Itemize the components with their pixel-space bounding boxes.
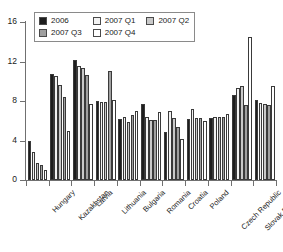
bar [77, 66, 81, 180]
plot-area [26, 22, 276, 180]
legend-item: 2007 Q4 [93, 28, 136, 38]
bar [149, 120, 153, 180]
bar [203, 121, 207, 180]
bar [191, 109, 195, 180]
bar [123, 117, 127, 180]
bar [218, 117, 222, 180]
bar [40, 165, 44, 180]
bar [108, 71, 112, 180]
y-tick-label: 8 [12, 95, 17, 106]
bar [141, 104, 145, 180]
bar [100, 102, 104, 180]
legend-swatch-icon [93, 29, 101, 37]
bar [145, 117, 149, 180]
bar [104, 102, 108, 180]
y-tick-label: 12 [8, 56, 17, 67]
chart-legend: 20062007 Q12007 Q22007 Q32007 Q4 [34, 12, 195, 42]
bar [180, 139, 184, 180]
legend-item: 2006 [39, 16, 82, 26]
legend-label: 2007 Q3 [51, 28, 82, 38]
bar-group [141, 22, 161, 180]
bar [176, 127, 180, 180]
bar [118, 119, 122, 180]
bar [50, 74, 54, 180]
bar [240, 86, 244, 180]
bar [135, 111, 139, 180]
bar [89, 104, 93, 180]
y-tick-label: 16 [8, 16, 17, 27]
x-axis-category-label: Hungary [51, 188, 77, 214]
legend-label: 2007 Q2 [158, 16, 189, 26]
bar [44, 170, 48, 180]
x-axis-line [25, 180, 277, 181]
bar [255, 100, 259, 180]
legend-label: 2006 [51, 16, 69, 26]
bar [213, 117, 217, 180]
bar [263, 104, 267, 180]
bar-group [187, 22, 207, 180]
bar-group [232, 22, 252, 180]
x-axis-labels: HungaryKazakhstanLatviaLithuaniaBulgaria… [0, 186, 283, 252]
bar [158, 112, 162, 180]
x-axis-category-label: Latvia [94, 188, 115, 209]
legend-item: 2007 Q1 [93, 16, 136, 26]
bar [58, 85, 62, 180]
bar-group [118, 22, 138, 180]
bar-group [164, 22, 184, 180]
bar [199, 118, 203, 180]
legend-label: 2007 Q4 [105, 28, 136, 38]
bar [131, 115, 135, 180]
bar [63, 97, 67, 180]
bar [73, 60, 77, 180]
bar [67, 131, 71, 180]
bar [164, 132, 168, 180]
bar [226, 114, 230, 180]
y-tick-label: 0 [12, 174, 17, 185]
legend-item: 2007 Q2 [146, 16, 189, 26]
bar-group [255, 22, 275, 180]
x-axis-category-label: Poland [208, 188, 231, 211]
x-axis-category-label: Lithuania [119, 188, 147, 216]
bar [81, 68, 85, 180]
bar [259, 103, 263, 180]
bar [187, 119, 191, 180]
bar-group [96, 22, 116, 180]
bar [153, 120, 157, 180]
bar [244, 105, 248, 180]
bar [222, 117, 226, 180]
bar [195, 118, 199, 180]
bar [127, 122, 131, 180]
y-tick-label: 4 [12, 135, 17, 146]
bar-group [50, 22, 70, 180]
legend-item: 2007 Q3 [39, 28, 82, 38]
bar [236, 88, 240, 180]
bar [248, 37, 252, 180]
legend-swatch-icon [93, 17, 101, 25]
bar [96, 101, 100, 180]
bar [28, 141, 32, 181]
bar [172, 118, 176, 180]
bar-group [28, 22, 48, 180]
bar [54, 76, 58, 180]
legend-swatch-icon [39, 29, 47, 37]
bar [267, 105, 271, 180]
bar [209, 118, 213, 180]
bar [232, 95, 236, 180]
bar [32, 152, 36, 180]
bar [85, 75, 89, 180]
bar-group [73, 22, 93, 180]
legend-swatch-icon [39, 17, 47, 25]
legend-label: 2007 Q1 [105, 16, 136, 26]
legend-swatch-icon [146, 17, 154, 25]
bar [36, 163, 40, 180]
bar-chart: 0481216 20062007 Q12007 Q22007 Q32007 Q4… [0, 0, 283, 252]
bar [112, 100, 116, 180]
bar [168, 111, 172, 180]
bar-group [209, 22, 229, 180]
bar [271, 86, 275, 180]
